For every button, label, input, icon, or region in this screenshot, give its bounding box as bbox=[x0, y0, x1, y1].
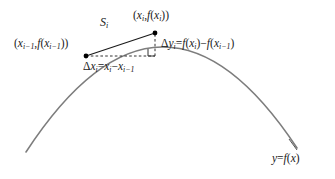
paren-close-2: ) bbox=[230, 37, 234, 49]
right-angle-marker bbox=[148, 49, 155, 56]
right-endpoint-dot bbox=[153, 31, 158, 36]
paren-close: )) bbox=[61, 37, 69, 49]
left-point-label: (xi−1,f(xi−1)) bbox=[14, 38, 68, 51]
func-x-subscript: i−1 bbox=[49, 42, 60, 51]
secant-subscript: i bbox=[106, 21, 108, 30]
x-subscript: i−1 bbox=[23, 42, 34, 51]
delta-y-label: Δyi=f(xi)−f(xi−1) bbox=[161, 38, 234, 51]
function-curve bbox=[26, 47, 297, 152]
x-subscript-2: i−1 bbox=[219, 42, 230, 51]
curve-equation-label: y=f(x) bbox=[272, 153, 300, 165]
paren-close: )) bbox=[161, 9, 169, 21]
paren-close: ) bbox=[296, 152, 300, 164]
delta-x-label: Δxi=xi−xi−1 bbox=[83, 61, 134, 74]
left-endpoint-dot bbox=[84, 54, 89, 59]
top-point-label: (xi,f(xi)) bbox=[133, 10, 169, 23]
x-subscript-2: i−1 bbox=[123, 65, 134, 74]
secant-label: Si bbox=[100, 16, 108, 30]
arc-length-diagram: (xi−1,f(xi−1)) (xi,f(xi)) Si Δyi=f(xi)−f… bbox=[0, 0, 335, 179]
secant-chord bbox=[86, 33, 155, 56]
